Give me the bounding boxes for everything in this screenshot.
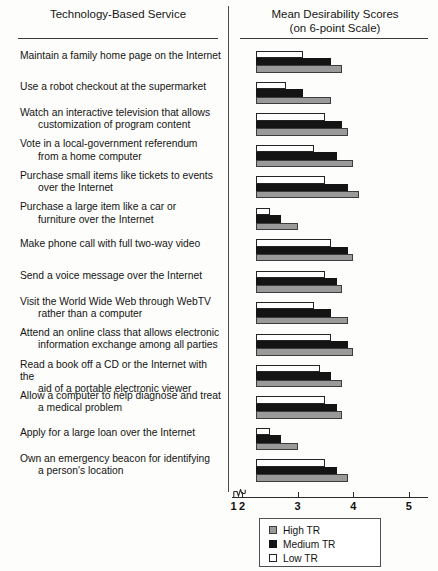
bar-group (256, 396, 423, 422)
x-axis-tick (242, 492, 243, 498)
bar-low (256, 271, 325, 278)
bar-group (256, 302, 423, 328)
x-axis-tick-label: 4 (350, 500, 356, 512)
bar-group (256, 271, 423, 297)
bar-high (256, 97, 331, 104)
bar-group (256, 82, 423, 108)
bar-med (256, 58, 331, 65)
bar-high (256, 65, 342, 72)
bar-med (256, 152, 337, 159)
bar-high (256, 285, 342, 292)
bar-low (256, 176, 325, 183)
x-axis-tick-label: 1 (230, 500, 236, 512)
bar-med (256, 278, 337, 285)
bar-group (256, 208, 423, 234)
bar-low (256, 145, 314, 152)
legend-label: High TR (283, 525, 320, 536)
chart-legend: High TRMedium TRLow TR (259, 518, 381, 567)
bar-med (256, 404, 337, 411)
x-axis-tick (409, 492, 410, 498)
figure-canvas: Technology-Based Service Mean Desirabili… (0, 0, 438, 571)
bar-high (256, 254, 353, 261)
bar-low (256, 459, 325, 466)
bar-med (256, 435, 281, 442)
bar-group (256, 239, 423, 265)
legend-label: Low TR (283, 553, 318, 564)
bar-med (256, 215, 281, 222)
bar-high (256, 317, 348, 324)
bar-med (256, 247, 348, 254)
x-axis-tick-label: 2 (239, 500, 245, 512)
legend-item: Low TR (269, 551, 380, 565)
bar-low (256, 239, 331, 246)
bar-low (256, 302, 314, 309)
bar-group (256, 365, 423, 391)
bar-high (256, 474, 348, 481)
bar-low (256, 113, 325, 120)
bar-group (256, 176, 423, 202)
bar-group (256, 51, 423, 77)
bar-med (256, 372, 331, 379)
x-axis-tick (298, 492, 299, 498)
axis-break-icon (233, 489, 247, 498)
bar-med (256, 121, 342, 128)
bar-low (256, 428, 270, 435)
bar-med (256, 467, 337, 474)
legend-swatch-low (269, 554, 277, 562)
x-axis-tick-label: 3 (295, 500, 301, 512)
bar-low (256, 51, 303, 58)
bar-med (256, 341, 348, 348)
bar-med (256, 184, 348, 191)
bar-med (256, 89, 303, 96)
legend-item: High TR (269, 523, 380, 537)
bar-chart-plot (0, 0, 438, 571)
bar-high (256, 443, 298, 450)
bar-low (256, 82, 286, 89)
bar-high (256, 223, 298, 230)
bar-high (256, 160, 353, 167)
bar-group (256, 428, 423, 454)
bar-low (256, 334, 331, 341)
bar-low (256, 365, 320, 372)
bar-group (256, 459, 423, 485)
bar-high (256, 348, 353, 355)
bar-low (256, 208, 270, 215)
bar-high (256, 128, 348, 135)
legend-item: Medium TR (269, 537, 380, 551)
legend-swatch-med (269, 540, 277, 548)
bar-group (256, 113, 423, 139)
bar-med (256, 309, 331, 316)
legend-label: Medium TR (283, 539, 335, 550)
bar-group (256, 145, 423, 171)
bar-high (256, 411, 342, 418)
bar-group (256, 334, 423, 360)
x-axis-tick-label: 5 (406, 500, 412, 512)
x-axis-tick (353, 492, 354, 498)
bar-high (256, 191, 359, 198)
legend-swatch-high (269, 526, 277, 534)
x-axis-line (232, 497, 428, 498)
bar-low (256, 396, 325, 403)
bar-high (256, 380, 342, 387)
